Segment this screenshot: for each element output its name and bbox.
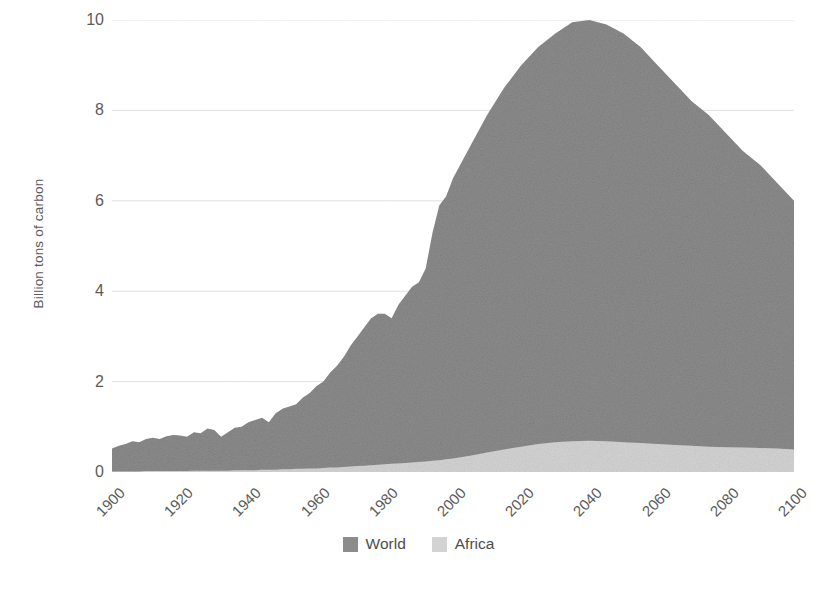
legend-swatch-world — [343, 537, 358, 552]
x-tick-label: 2020 — [497, 484, 537, 524]
x-tick-label: 2060 — [633, 484, 673, 524]
x-tick-label: 1940 — [224, 484, 264, 524]
x-tick-label: 2000 — [429, 484, 469, 524]
carbon-emissions-area-chart: Billion tons of carbon 0246810 190019201… — [0, 0, 837, 598]
legend-label: Africa — [455, 535, 495, 553]
x-tick-label: 1980 — [361, 484, 401, 524]
x-tick-label: 2040 — [565, 484, 605, 524]
legend-item-africa[interactable]: Africa — [432, 535, 495, 553]
x-tick-label: 1960 — [292, 484, 332, 524]
chart-legend: WorldAfrica — [0, 535, 837, 553]
legend-item-world[interactable]: World — [343, 535, 406, 553]
x-tick-label: 1900 — [88, 484, 128, 524]
legend-swatch-africa — [432, 537, 447, 552]
x-tick-label: 2100 — [770, 484, 810, 524]
x-tick-label: 2080 — [702, 484, 742, 524]
x-axis-tick-labels: 1900192019401960198020002020204020602080… — [0, 0, 837, 598]
x-tick-label: 1920 — [156, 484, 196, 524]
legend-label: World — [366, 535, 406, 553]
